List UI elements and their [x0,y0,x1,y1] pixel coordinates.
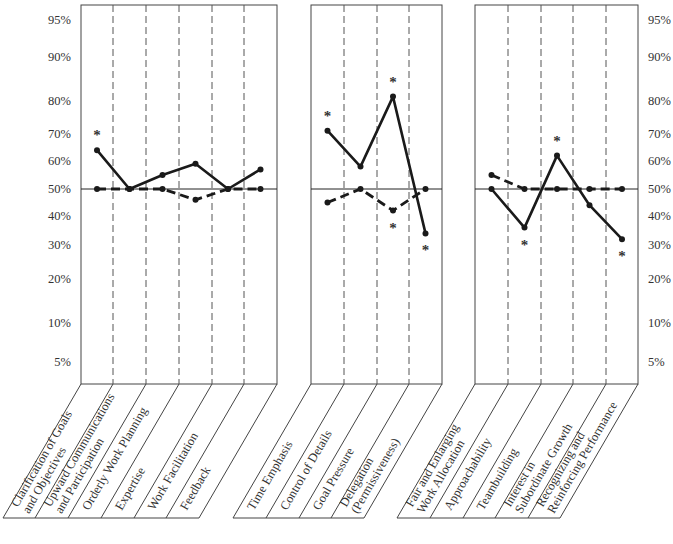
y-tick-label: 60% [648,154,671,168]
data-point [325,128,331,134]
panel-frame [475,5,638,384]
data-point [489,186,495,192]
data-point [225,186,231,192]
significance-asterisk: * [553,133,561,149]
y-tick-label: 40% [48,209,71,223]
significance-asterisk: * [422,242,430,258]
data-point [390,208,396,214]
data-point [619,186,625,192]
y-tick-label: 90% [48,50,71,64]
data-point [258,186,264,192]
y-tick-label: 60% [48,154,71,168]
y-tick-label: 90% [648,50,671,64]
data-point [423,186,429,192]
y-tick-label: 30% [648,238,671,252]
significance-asterisk: * [93,127,101,143]
data-point [489,172,495,178]
category-label: Delegation(Permissiveness) [337,429,403,516]
y-tick-label: 50% [48,182,71,196]
significance-asterisk: * [521,237,529,253]
label-divider [199,384,277,518]
data-point [554,153,560,159]
data-point [619,236,625,242]
label-divider [233,384,311,518]
y-tick-label: 80% [48,94,71,108]
label-divider [134,384,212,518]
data-point [423,230,429,236]
data-point [522,186,528,192]
y-tick-label: 20% [648,272,671,286]
y-tick-label: 5% [54,355,71,369]
data-point [160,186,166,192]
series-solid-line [492,156,623,240]
data-point [193,197,199,203]
y-tick-label: 10% [48,316,71,330]
data-point [358,186,364,192]
y-tick-label: 95% [648,13,671,27]
y-tick-label: 20% [48,272,71,286]
significance-asterisk: * [324,108,332,124]
y-tick-label: 95% [48,13,71,27]
y-tick-label: 50% [648,182,671,196]
data-point [358,164,364,170]
data-point [325,200,331,206]
y-tick-label: 10% [648,316,671,330]
data-point [587,202,593,208]
significance-asterisk: * [618,248,626,264]
data-point [522,225,528,231]
y-tick-label: 70% [648,127,671,141]
y-tick-label: 70% [48,127,71,141]
y-tick-label: 40% [648,209,671,223]
panel-right: Fair and EnlargingWork AllocationApproac… [397,5,671,518]
data-point [193,161,199,167]
percentile-profile-chart: Clarification of Goalsand ObjectivesUpwa… [0,0,673,544]
panel-middle: Time EmphasisControl of DetailsGoal Pres… [233,5,442,518]
data-point [94,147,100,153]
panel-left: Clarification of Goalsand ObjectivesUpwa… [3,5,277,518]
data-point [258,166,264,172]
data-point [390,94,396,100]
data-point [127,186,133,192]
category-label: Feedback [177,463,214,512]
data-point [94,186,100,192]
data-point [554,186,560,192]
y-tick-label: 80% [648,94,671,108]
y-tick-label: 5% [648,355,665,369]
significance-asterisk: * [389,74,397,90]
data-point [587,186,593,192]
y-tick-label: 30% [48,238,71,252]
data-point [160,172,166,178]
significance-asterisk: * [389,220,397,236]
